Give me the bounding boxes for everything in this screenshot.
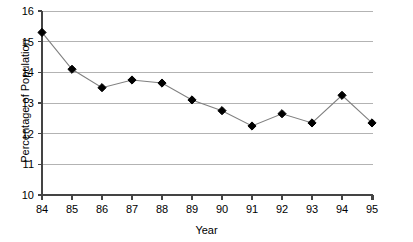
- y-tick-label: 10: [22, 189, 34, 201]
- chart-plot-area: 10111213141516 848586878889909192939495: [0, 0, 413, 242]
- x-tick-label: 86: [96, 203, 108, 215]
- x-tick-label: 88: [156, 203, 168, 215]
- data-point-marker: [248, 122, 256, 130]
- y-axis-title: Percentage of Population: [19, 21, 31, 181]
- series-line: [42, 32, 372, 126]
- y-axis: [38, 11, 42, 195]
- x-tick-label: 93: [306, 203, 318, 215]
- data-point-marker: [158, 79, 166, 87]
- bottom-cropped-caption: [0, 236, 413, 242]
- x-tick-label: 91: [246, 203, 258, 215]
- x-tick-labels: 848586878889909192939495: [36, 203, 378, 215]
- data-point-marker: [218, 107, 226, 115]
- y-tick-label: 16: [22, 5, 34, 17]
- x-tick-label: 90: [216, 203, 228, 215]
- x-tick-label: 92: [276, 203, 288, 215]
- x-tick-label: 94: [336, 203, 348, 215]
- data-point-marker: [278, 110, 286, 118]
- data-point-marker: [128, 76, 136, 84]
- data-point-marker: [98, 84, 106, 92]
- data-series-line: [42, 32, 372, 126]
- gridlines-group: [42, 11, 373, 164]
- x-tick-label: 89: [186, 203, 198, 215]
- x-tick-label: 87: [126, 203, 138, 215]
- x-tick-label: 85: [66, 203, 78, 215]
- x-tick-label: 84: [36, 203, 48, 215]
- x-axis: [42, 195, 373, 200]
- x-tick-label: 95: [366, 203, 378, 215]
- line-chart-figure: 10111213141516 848586878889909192939495 …: [0, 0, 413, 242]
- top-scan-artifact: [318, 0, 328, 5]
- x-axis-title: Year: [0, 224, 413, 236]
